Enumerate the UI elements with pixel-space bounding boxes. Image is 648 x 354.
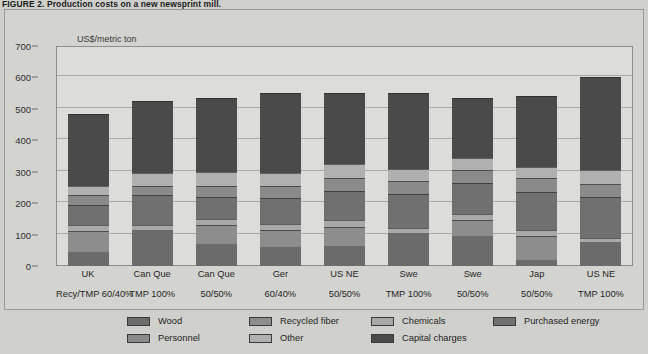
bars-layer <box>56 46 633 266</box>
y-axis-tick-mark-0 <box>32 266 38 267</box>
y-axis: 0100200300400500600700 <box>5 46 56 268</box>
y-axis-tick-mark-400 <box>32 140 38 141</box>
bar-segment <box>516 167 557 178</box>
category-label-line2: 50/50% <box>441 289 505 300</box>
bar-segment <box>452 220 493 236</box>
category-label-line2: TMP 100% <box>120 289 184 300</box>
bar-segment <box>260 198 301 223</box>
legend-item[interactable]: Capital charges <box>371 333 467 343</box>
category-label-line1: Jap <box>505 269 569 280</box>
bar-segment <box>388 169 429 182</box>
category-label-line2: 50/50% <box>312 289 376 300</box>
y-axis-tick-label-600: 600 <box>15 72 31 83</box>
legend-color-swatch <box>371 317 394 326</box>
category-label-line2: 50/50% <box>505 289 569 300</box>
bar-segment <box>196 197 237 219</box>
y-axis-tick-mark-600 <box>32 77 38 78</box>
bar-column <box>324 93 365 266</box>
bar-segment <box>516 260 557 266</box>
bar-segment <box>324 246 365 266</box>
category-label-line1: UK <box>56 269 120 280</box>
chart-panel: US$/metric ton 0100200300400500600700 UK… <box>4 9 644 310</box>
legend-label: Personnel <box>158 333 200 343</box>
category-label-line2: 60/40% <box>248 289 312 300</box>
legend-label: Purchased energy <box>524 316 599 326</box>
chart-legend: WoodPersonnelRecycled fiberOtherChemical… <box>4 314 644 352</box>
y-axis-unit-label: US$/metric ton <box>77 34 137 44</box>
legend-item[interactable]: Chemicals <box>371 316 445 326</box>
y-axis-tick-label-300: 300 <box>15 166 31 177</box>
bar-segment <box>324 227 365 246</box>
bar-segment <box>132 173 173 186</box>
bar-segment <box>196 225 237 244</box>
bar-segment <box>68 114 109 186</box>
category-label-line2: 50/50% <box>184 289 248 300</box>
x-axis-category-labels: UKRecy/TMP 60/40%Can QueTMP 100%Can Que5… <box>56 269 633 315</box>
bar-segment <box>132 230 173 266</box>
bar-column <box>580 77 621 266</box>
bar-segment <box>260 186 301 199</box>
bar-segment <box>452 183 493 214</box>
bar-column <box>516 96 557 266</box>
legend-label: Capital charges <box>402 333 467 343</box>
legend-item[interactable]: Wood <box>127 316 182 326</box>
bar-segment <box>452 98 493 158</box>
bar-segment <box>260 247 301 266</box>
x-axis-category-label: Can Que50/50% <box>184 269 248 300</box>
legend-color-swatch <box>493 317 516 326</box>
category-label-line1: Can Que <box>120 269 184 280</box>
category-label-line1: Ger <box>248 269 312 280</box>
bar-segment <box>452 170 493 183</box>
legend-color-swatch <box>127 334 150 343</box>
bar-segment <box>68 195 109 204</box>
bar-segment <box>452 158 493 171</box>
legend-label: Other <box>280 333 303 343</box>
legend-item[interactable]: Personnel <box>127 333 200 343</box>
bar-column <box>452 98 493 266</box>
bar-segment <box>324 191 365 221</box>
bar-column <box>132 101 173 266</box>
legend-item[interactable]: Purchased energy <box>493 316 599 326</box>
bar-segment <box>132 195 173 225</box>
category-label-line2: TMP 100% <box>569 289 633 300</box>
category-label-line1: Swe <box>377 269 441 280</box>
bar-segment <box>68 205 109 225</box>
bar-segment <box>580 242 621 266</box>
bar-column <box>196 98 237 266</box>
legend-item[interactable]: Other <box>249 333 303 343</box>
category-label-line1: US NE <box>312 269 376 280</box>
bar-segment <box>516 96 557 167</box>
y-axis-tick-label-0: 0 <box>26 261 31 272</box>
bar-segment <box>324 93 365 164</box>
y-axis-tick-label-100: 100 <box>15 229 31 240</box>
bar-segment <box>196 186 237 197</box>
bar-segment <box>196 98 237 172</box>
legend-label: Recycled fiber <box>280 316 339 326</box>
bar-segment <box>388 181 429 194</box>
bar-segment <box>324 178 365 191</box>
bar-segment <box>68 186 109 195</box>
bar-segment <box>260 173 301 186</box>
x-axis-category-label: US NETMP 100% <box>569 269 633 300</box>
figure-caption: FIGURE 2. Production costs on a new news… <box>2 0 221 9</box>
y-axis-tick-mark-200 <box>32 203 38 204</box>
bar-segment <box>68 252 109 266</box>
bar-segment <box>580 184 621 197</box>
x-axis-category-label: SweTMP 100% <box>377 269 441 300</box>
bar-segment <box>196 172 237 186</box>
x-axis-category-label: US NE50/50% <box>312 269 376 300</box>
bar-segment <box>580 77 621 170</box>
legend-color-swatch <box>249 334 272 343</box>
legend-color-swatch <box>127 317 150 326</box>
bar-segment <box>68 231 109 251</box>
bar-segment <box>388 93 429 168</box>
legend-label: Chemicals <box>402 316 445 326</box>
category-label-line2: TMP 100% <box>377 289 441 300</box>
bar-segment <box>388 194 429 229</box>
bar-segment <box>388 233 429 266</box>
y-axis-tick-mark-700 <box>32 46 38 47</box>
legend-color-swatch <box>371 334 394 343</box>
category-label-line2: Recy/TMP 60/40% <box>56 289 120 300</box>
bar-segment <box>132 101 173 173</box>
legend-item[interactable]: Recycled fiber <box>249 316 339 326</box>
